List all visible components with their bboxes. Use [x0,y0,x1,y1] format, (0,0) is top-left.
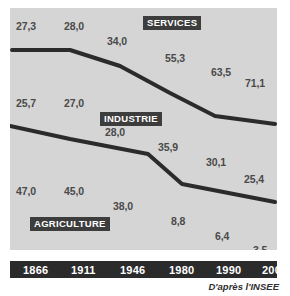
value-industrie-1980: 35,9 [158,141,178,153]
axis-year-1980: 1980 [169,264,194,276]
value-agriculture-2001: 3,5 [253,244,267,250]
value-services-1911: 28,0 [64,20,84,32]
year-axis-bar: 1866 1911 1946 1980 1990 2001 [10,261,277,278]
plot-area: 27,3 28,0 34,0 55,3 63,5 71,1 SERVICES 2… [10,8,277,250]
value-agriculture-1990: 6,4 [215,230,229,242]
value-agriculture-1911: 45,0 [64,185,84,197]
value-services-1866: 27,3 [16,20,36,32]
value-services-1990: 63,5 [211,66,231,78]
value-services-1980: 55,3 [165,52,185,64]
series-label-agriculture: AGRICULTURE [30,217,110,231]
chart-lines [10,8,277,250]
value-industrie-2001: 25,4 [244,173,264,185]
value-services-1946: 34,0 [107,35,127,47]
axis-year-1990: 1990 [216,264,241,276]
value-industrie-1911: 27,0 [64,97,84,109]
value-agriculture-1946: 38,0 [113,200,133,212]
value-industrie-1990: 30,1 [206,156,226,168]
axis-year-1946: 1946 [120,264,145,276]
series-label-industrie: INDUSTRIE [100,112,162,126]
value-agriculture-1866: 47,0 [16,185,36,197]
value-agriculture-1980: 8,8 [171,215,185,227]
value-services-2001: 71,1 [245,77,265,89]
axis-year-1911: 1911 [71,264,96,276]
axis-year-2001: 2001 [262,264,287,276]
source-caption: D'après l'INSEE [208,281,279,292]
value-industrie-1946: 28,0 [105,126,125,138]
axis-year-1866: 1866 [23,264,48,276]
series-label-services: SERVICES [143,16,201,30]
industrie-line [10,126,275,202]
chart-page: 27,3 28,0 34,0 55,3 63,5 71,1 SERVICES 2… [0,0,290,296]
value-industrie-1866: 25,7 [16,97,36,109]
